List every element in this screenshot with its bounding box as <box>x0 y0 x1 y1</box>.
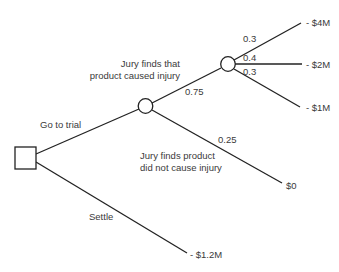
chance-node-trial <box>138 99 153 114</box>
payoff-settle: - $1.2M <box>190 249 222 260</box>
payoff-damages-mid: - $2M <box>306 59 330 70</box>
payoff-no-injury: $0 <box>286 180 297 191</box>
label-injury-line2: product caused injury <box>90 70 181 81</box>
edge-go-to-trial <box>36 109 139 154</box>
label-no-injury-line2: did not cause injury <box>140 162 222 173</box>
payoff-damages-high: - $4M <box>306 17 330 28</box>
probability-damages-low: 0.3 <box>243 66 256 77</box>
probability-damages-mid: 0.4 <box>243 52 256 63</box>
chance-node-damages <box>221 57 236 72</box>
decision-node <box>15 147 36 169</box>
probability-injury: 0.75 <box>185 86 204 97</box>
probability-no-injury: 0.25 <box>218 134 237 145</box>
label-settle: Settle <box>89 211 113 222</box>
label-no-injury-line1: Jury finds product <box>140 150 215 161</box>
decision-tree-diagram: Go to trial Settle Jury finds that produ… <box>0 0 339 272</box>
probability-damages-high: 0.3 <box>243 33 256 44</box>
payoff-damages-low: - $1M <box>306 102 330 113</box>
label-go-to-trial: Go to trial <box>40 119 81 130</box>
edge-settle <box>36 162 187 253</box>
label-injury-line1: Jury finds that <box>121 58 180 69</box>
